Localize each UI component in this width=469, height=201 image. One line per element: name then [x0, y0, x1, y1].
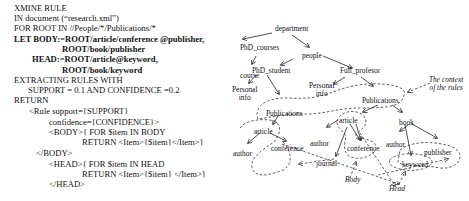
node-publisher: publisher	[424, 149, 452, 157]
node-conference-left: conference	[271, 145, 303, 153]
node-keyword: keyword	[402, 161, 428, 169]
node-full-professor: Full_profesor	[340, 67, 380, 75]
node-phd-student: PhD_student	[252, 67, 290, 75]
node-author-mid: author	[310, 140, 329, 148]
node-article-left: article	[254, 128, 272, 136]
annotation-context: The context of the rules	[429, 76, 463, 92]
node-personal-info-left: Personal info	[232, 86, 257, 102]
annotation-head: Head	[389, 185, 405, 193]
node-department: department	[275, 25, 308, 33]
node-conference-right: conference	[347, 145, 379, 153]
node-publications-right: Publications	[362, 97, 399, 105]
node-author-right: author	[386, 141, 405, 149]
node-people: people	[302, 52, 322, 60]
node-journal: journal	[316, 160, 337, 168]
node-book: book	[399, 119, 414, 127]
node-phd-courses: PhD_courses	[240, 44, 279, 52]
node-author-left: author	[233, 150, 252, 158]
annotation-body: Body	[345, 176, 360, 184]
node-publications-left: Publications	[266, 110, 303, 118]
node-article-right: article	[339, 117, 357, 125]
node-personal-info-right: Personal info	[309, 82, 334, 98]
xml-tree-diagram: department PhD_courses course people PhD…	[0, 0, 469, 201]
